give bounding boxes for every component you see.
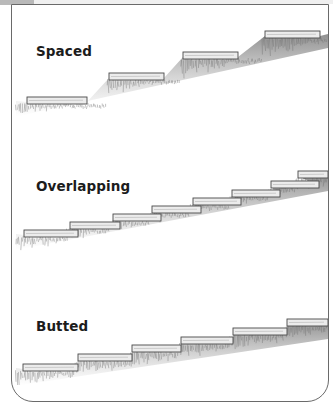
step-board [298, 171, 328, 178]
step-board [152, 206, 201, 213]
panel-overlapping: Overlapping [12, 143, 328, 273]
panel-spaced: Spaced [12, 4, 328, 129]
step-board [23, 364, 78, 371]
step-board [183, 52, 238, 59]
step-board [113, 214, 161, 221]
step-board [24, 230, 78, 237]
step-board [271, 181, 319, 188]
step-board [109, 73, 164, 80]
spaced-steps-illustration [12, 4, 328, 129]
step-board [27, 97, 87, 104]
panel-label-butted: Butted [36, 318, 88, 334]
step-board [265, 31, 320, 38]
step-board [232, 190, 280, 197]
step-board [181, 337, 233, 344]
panel-butted: Butted [12, 285, 328, 400]
overlapping-steps-illustration [12, 143, 328, 273]
step-board [193, 198, 241, 205]
step-board [233, 328, 287, 335]
step-board [70, 222, 120, 229]
panel-label-overlapping: Overlapping [36, 178, 130, 194]
butted-steps-illustration [12, 285, 328, 400]
panel-label-spaced: Spaced [36, 43, 92, 59]
step-board [287, 319, 328, 326]
step-board [78, 354, 132, 361]
step-board [132, 345, 181, 352]
